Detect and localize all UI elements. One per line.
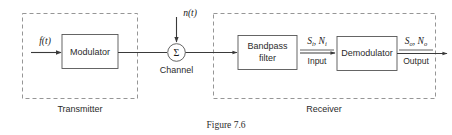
transmitter-group-label: Transmitter	[57, 104, 102, 114]
source-signal-label: f(t)	[39, 36, 51, 47]
source-signal-arg: (t)	[42, 36, 51, 47]
channel-label: Channel	[160, 65, 194, 75]
output-caption: Output	[403, 56, 429, 66]
bandpass-filter-label-line1: Bandpass	[247, 41, 288, 51]
figure-7-6-block-diagram: Transmitter Receiver f(t) Modulator n(t)…	[0, 0, 452, 135]
output-signal-label: So, No	[405, 36, 428, 47]
output-signal-n-sub: o	[424, 40, 428, 47]
input-signal-n-sub: i	[325, 40, 327, 47]
bandpass-filter-label-line2: filter	[259, 53, 276, 63]
figure-caption: Figure 7.6	[206, 120, 245, 130]
block-diagram-canvas: Transmitter Receiver f(t) Modulator n(t)…	[0, 0, 452, 135]
input-signal-label: Si, Ni	[307, 36, 327, 47]
input-caption: Input	[308, 56, 328, 66]
noise-signal-arg: (t)	[188, 8, 197, 19]
noise-signal-label: n(t)	[183, 8, 197, 19]
receiver-group-label: Receiver	[306, 104, 342, 114]
modulator-block-label: Modulator	[70, 47, 110, 57]
demodulator-block-label: Demodulator	[341, 48, 393, 58]
sigma-icon: Σ	[174, 47, 180, 58]
